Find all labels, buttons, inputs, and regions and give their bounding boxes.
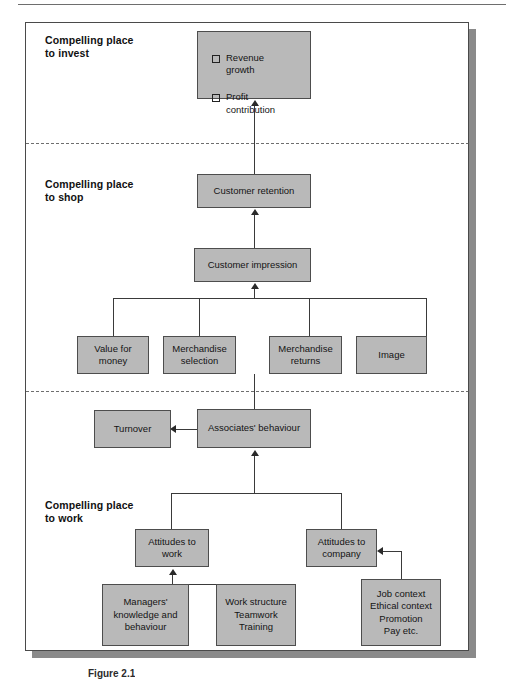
connector-associates-to-turnover (174, 429, 197, 430)
bullet-revenue-growth: Revenue growth (212, 52, 310, 77)
node-job-context[interactable]: Job context Ethical context Promotion Pa… (361, 579, 441, 646)
arrowhead-job-context-to-attitudes-company (377, 547, 383, 555)
figure-frame: Compelling place to invest Compelling pl… (25, 22, 469, 651)
connector-associates-to-impression (254, 374, 255, 410)
connector-enablers-to-attitudes-work (172, 574, 173, 584)
node-work-structure[interactable]: Work structure Teamwork Training (216, 584, 296, 646)
node-value-for-money[interactable]: Value for money (77, 336, 149, 374)
node-merchandise-returns[interactable]: Merchandise returns (269, 336, 342, 374)
connector-attitudes-bus (171, 493, 341, 494)
connector-bus-to-attitudes-company (341, 493, 342, 529)
page-top-rule (18, 4, 506, 5)
band-label-work: Compelling place to work (45, 499, 134, 525)
band-divider-invest-shop (26, 143, 469, 144)
node-outcomes[interactable]: Revenue growth Profit contribution (197, 31, 311, 99)
connector-driver-bus (113, 298, 426, 299)
connector-bus-to-value-for-money (113, 298, 114, 336)
node-image[interactable]: Image (356, 336, 427, 374)
connector-bus-to-image (426, 298, 427, 336)
node-customer-impression[interactable]: Customer impression (194, 248, 311, 282)
node-turnover[interactable]: Turnover (94, 410, 171, 448)
bullet-text-profit-contribution: Profit contribution (226, 91, 275, 116)
figure-caption: Figure 2.1 (88, 668, 135, 680)
band-label-invest: Compelling place to invest (45, 34, 134, 60)
checkbox-square-icon (212, 94, 220, 102)
connector-drivers-to-impression (254, 288, 255, 298)
node-managers-knowledge[interactable]: Managers' knowledge and behaviour (102, 584, 189, 646)
node-attitudes-to-work[interactable]: Attitudes to work (135, 529, 209, 567)
connector-job-context-riser (401, 551, 402, 579)
connector-attitudes-to-associates (254, 455, 255, 493)
bullet-profit-contribution: Profit contribution (212, 91, 310, 116)
connector-job-context-to-attitudes-company (382, 551, 401, 552)
band-label-shop: Compelling place to shop (45, 178, 134, 204)
connector-bus-to-merchandise-selection (199, 298, 200, 336)
node-customer-retention[interactable]: Customer retention (197, 174, 311, 208)
node-merchandise-selection[interactable]: Merchandise selection (163, 336, 236, 374)
node-associates-behaviour[interactable]: Associates' behaviour (197, 409, 311, 448)
connector-bus-to-attitudes-work (171, 493, 172, 529)
checkbox-square-icon (212, 55, 220, 63)
connector-impression-to-retention (254, 214, 255, 248)
node-attitudes-to-company[interactable]: Attitudes to company (306, 529, 377, 567)
arrowhead-impression-to-retention (251, 209, 259, 215)
arrowhead-enablers-to-attitudes-work (169, 569, 177, 575)
connector-bus-to-merchandise-returns (309, 298, 310, 336)
arrowhead-attitudes-to-associates (251, 450, 259, 456)
arrowhead-drivers-to-impression (251, 283, 259, 289)
bullet-text-revenue-growth: Revenue growth (226, 52, 264, 77)
band-divider-shop-work (26, 391, 469, 392)
